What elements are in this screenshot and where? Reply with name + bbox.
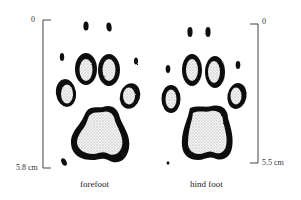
hindfoot-claw-icon (205, 27, 210, 37)
forefoot-scale-bracket (43, 20, 51, 168)
forefoot-claw-icon (60, 53, 64, 61)
hindfoot-print (162, 27, 249, 165)
forefoot-dewclaw-icon (60, 157, 68, 166)
forefoot-scale-bottom-label: 5.8 cm (16, 164, 38, 172)
hindfoot-claw-icon (187, 27, 192, 37)
hindfoot-scale-bottom-label: 5.5 cm (262, 159, 284, 167)
hindfoot-claw-icon (236, 61, 241, 69)
hindfoot-scale-top-label: 0 (262, 18, 266, 26)
hindfoot-dewclaw-icon (167, 161, 170, 165)
hindfoot-claw-icon (166, 65, 171, 73)
forefoot-print (54, 22, 143, 167)
hindfoot-caption: hind foot (190, 179, 223, 189)
forefoot-claw-icon (83, 22, 88, 31)
pawprint-diagram (0, 0, 301, 200)
hindfoot-scale-bracket (250, 24, 258, 163)
forefoot-claw-icon (106, 22, 112, 32)
forefoot-scale-top-label: 0 (31, 16, 35, 24)
forefoot-caption: forefoot (80, 179, 109, 189)
forefoot-claw-icon (134, 57, 138, 64)
